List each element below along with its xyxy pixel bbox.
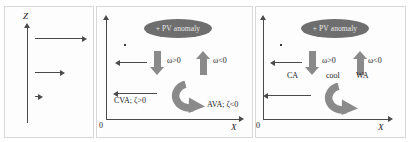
arrow-shaft: [154, 51, 161, 67]
omega-positive-down-arrow-icon: [150, 51, 164, 75]
cyclonic-circulation-swirl-icon: [163, 81, 211, 115]
arrowhead-right-icon: [60, 70, 65, 76]
wind-arrow-upper: [35, 38, 83, 39]
pv-anomaly-label: + PV anomaly: [156, 24, 200, 33]
right-vertical-axis-line: [263, 19, 264, 119]
omega-positive-label: ω>0: [167, 56, 181, 65]
arrow-head: [305, 67, 319, 75]
z-axis-arrowhead-icon: [24, 23, 30, 28]
wind-arrow-middle: [35, 72, 61, 73]
mid-origin-label: 0: [99, 121, 103, 130]
panel-vertical-shear-profile: Z: [4, 6, 94, 138]
arrow-head: [353, 51, 367, 59]
pv-anomaly-label: + PV anomaly: [313, 24, 357, 33]
arrow-head: [150, 67, 164, 75]
right-x-axis-line: [263, 119, 389, 120]
omega-negative-label: ω<0: [213, 56, 227, 65]
right-vertical-axis-arrowhead-icon: [260, 15, 266, 20]
cold-advection-label: CA: [287, 71, 298, 80]
right-inflow-arrow-left: [274, 62, 302, 63]
arrow-shaft: [200, 59, 207, 75]
ava-label: AVA; ζ<0: [207, 100, 238, 109]
marker-dot: [124, 44, 126, 46]
right-x-axis-label: X: [378, 122, 384, 132]
omega-negative-up-arrow-icon: [196, 51, 210, 75]
cva-label: CVA; ζ>0: [114, 96, 146, 105]
cyclonic-circulation-swirl-icon: [316, 83, 364, 117]
arrow-shaft: [309, 51, 316, 67]
arrowhead-right-icon: [38, 94, 43, 100]
arrowhead-left-icon: [115, 60, 120, 66]
pv-anomaly-ellipse: + PV anomaly: [144, 19, 212, 38]
arrowhead-left-icon: [270, 60, 275, 66]
marker-dot: [280, 44, 282, 46]
omega-positive-down-arrow-icon: [305, 51, 319, 75]
arrow-head: [196, 51, 210, 59]
mid-x-axis-line: [106, 119, 240, 120]
pv-anomaly-ellipse: + PV anomaly: [301, 19, 369, 38]
wind-arrow-lower: [35, 96, 39, 97]
figure-canvas: Z 0 X + PV anomaly: [0, 0, 408, 142]
panel-vorticity-advection: 0 X + PV anomaly ω>0 ω<0: [96, 6, 253, 138]
mid-x-axis-label: X: [231, 122, 237, 132]
right-x-axis-arrowhead-icon: [388, 116, 393, 122]
cva-arrow: [117, 93, 157, 94]
mid-vertical-axis-arrowhead-icon: [103, 15, 109, 20]
mid-x-axis-arrowhead-icon: [239, 116, 244, 122]
omega-positive-label: ω>0: [322, 56, 336, 65]
cool-label: cool: [326, 71, 340, 80]
right-origin-label: 0: [256, 121, 260, 130]
z-axis-line: [27, 27, 28, 123]
omega-negative-label: ω<0: [368, 56, 382, 65]
mid-inflow-arrow-left: [119, 62, 147, 63]
mid-vertical-axis-line: [106, 19, 107, 119]
arrowhead-right-icon: [82, 36, 87, 42]
arrowhead-left-icon: [263, 93, 268, 99]
right-outflow-arrow-left: [267, 95, 311, 96]
panel-thermal-advection: 0 X + PV anomaly ω>0 CA ω<0 WA cool: [255, 6, 406, 138]
z-axis-label: Z: [23, 11, 28, 21]
warm-advection-label: WA: [356, 71, 368, 80]
